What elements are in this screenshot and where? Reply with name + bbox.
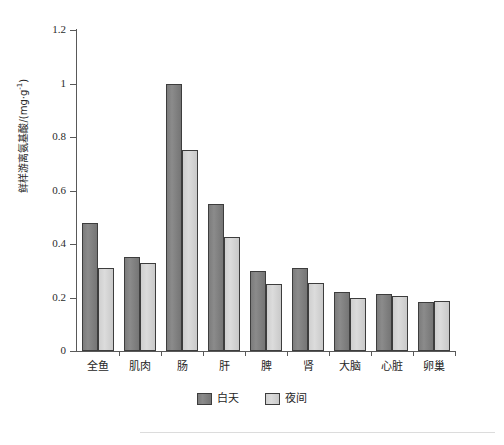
y-axis-tick [70,84,76,85]
x-axis-tick [455,351,456,356]
bar-night [98,268,114,351]
x-axis-line [76,351,456,352]
y-axis-tick [70,298,76,299]
legend-label: 夜间 [285,393,307,405]
x-axis-tick [203,351,204,356]
chart-figure: 鲜样游离氨基酸/(mg·g-1) 00.20.40.60.811.2 全鱼肌肉肠… [0,0,504,445]
x-axis-tick [329,351,330,356]
y-axis-tick-label-text: 0.2 [52,292,66,303]
y-axis-tick-label-text: 0.6 [52,185,66,196]
x-axis-tick [161,351,162,356]
x-axis-category-label: 心脏 [381,360,403,373]
bottom-divider [140,432,495,433]
bar-night [350,298,366,352]
bar-day [208,204,224,351]
x-axis-category-label: 全鱼 [87,360,109,373]
bar-night [266,284,282,351]
legend-item: 夜间 [265,393,307,405]
x-axis-category-label: 肝 [219,360,230,373]
bar-night [434,301,450,351]
y-axis-tick-label: 0 [30,345,66,356]
x-axis-tick [119,351,120,356]
y-axis-tick [70,244,76,245]
y-axis-tick [70,137,76,138]
bar-day [334,292,350,351]
x-axis-category-label: 卵巢 [423,360,445,373]
y-axis-tick-label: 0.4 [30,238,66,249]
x-axis-tick [413,351,414,356]
plot-area [77,30,455,351]
bar-night [224,237,240,351]
y-axis-tick-label-text: 0.8 [52,131,66,142]
y-axis-title-tail: ) [18,79,29,83]
y-axis-tick-label-text: 1.2 [52,24,66,35]
y-axis-tick-label: 1 [30,78,66,89]
bar-day [82,223,98,351]
x-axis-tick [245,351,246,356]
y-axis-title-main: 鲜样游离氨基酸/(mg·g [18,90,29,193]
bar-day [292,268,308,351]
bar-night [308,283,324,351]
legend-label: 白天 [217,393,239,405]
legend-swatch-night [265,393,280,405]
bar-night [140,263,156,351]
bar-day [250,271,266,351]
x-axis-category-label: 肌肉 [129,360,151,373]
y-axis-tick-label-text: 0.4 [52,238,66,249]
y-axis-tick-label: 0.8 [30,131,66,142]
bar-night [182,150,198,351]
x-axis-category-label: 脾 [261,360,272,373]
y-axis-tick-label: 0.2 [30,292,66,303]
y-axis-tick [70,30,76,31]
chart-legend: 白天夜间 [0,393,504,405]
bar-day [418,302,434,351]
legend-swatch-day [197,393,212,405]
x-axis-tick [371,351,372,356]
y-axis-tick-label: 1.2 [30,24,66,35]
legend-item: 白天 [197,393,239,405]
x-axis-category-label: 肠 [177,360,188,373]
bar-day [166,84,182,352]
x-axis-tick [287,351,288,356]
bar-day [376,294,392,352]
y-axis-tick-label: 0.6 [30,185,66,196]
y-axis-tick [70,351,76,352]
x-axis-category-label: 肾 [303,360,314,373]
bar-night [392,296,408,351]
y-axis-title-exponent: -1 [16,83,24,90]
y-axis-tick-label-text: 0 [61,345,67,356]
y-axis-title: 鲜样游离氨基酸/(mg·g-1) [14,56,29,216]
y-axis-tick-label-text: 1 [61,78,67,89]
y-axis-tick [70,191,76,192]
x-axis-category-label: 大脑 [339,360,361,373]
bar-day [124,257,140,351]
